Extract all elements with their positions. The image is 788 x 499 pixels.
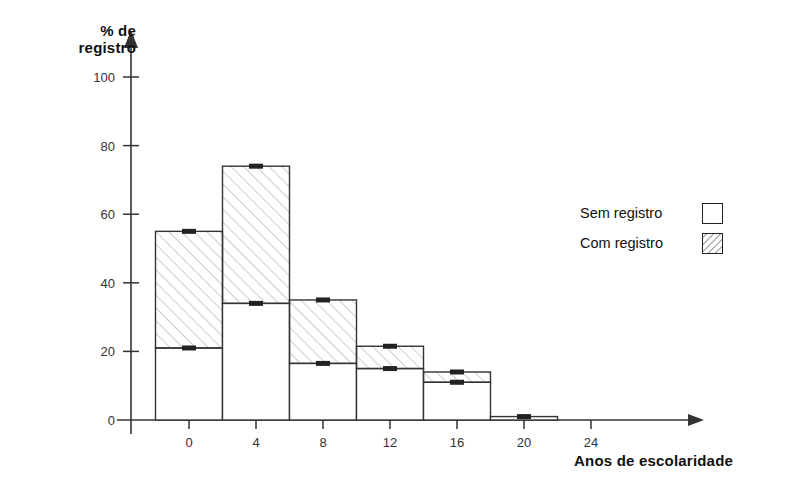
bar-top-marker	[383, 344, 397, 349]
bar-top-marker	[249, 164, 263, 169]
bar-divider-marker	[249, 301, 263, 306]
bar-segment-sem-registro	[424, 382, 491, 420]
bar-segment-com-registro	[223, 166, 290, 303]
bar-segment-com-registro	[156, 231, 223, 348]
legend-label-sem-registro: Sem registro	[580, 205, 688, 221]
y-tick-label: 80	[101, 139, 115, 154]
legend-swatch-com-registro	[702, 233, 723, 254]
x-axis-arrow	[688, 414, 704, 426]
y-axis-title: % de registro	[26, 22, 136, 56]
legend-item-sem-registro: Sem registro	[580, 200, 723, 226]
bar-segment-com-registro	[290, 300, 357, 363]
bar-top-marker	[182, 229, 196, 234]
legend-label-com-registro: Com registro	[580, 235, 688, 251]
y-tick-label: 40	[101, 276, 115, 291]
y-tick-label: 20	[101, 344, 115, 359]
bar-segment-sem-registro	[290, 363, 357, 420]
x-tick-label: 0	[185, 435, 192, 450]
x-tick-label: 12	[383, 435, 397, 450]
bar-top-marker	[517, 414, 531, 419]
bar-group	[156, 229, 223, 420]
x-tick-label: 16	[450, 435, 464, 450]
bar-segment-sem-registro	[223, 303, 290, 420]
bar-divider-marker	[450, 380, 464, 385]
chart-container: % de registro Anos de escolaridade Sem r…	[0, 0, 788, 499]
bars-layer	[156, 164, 558, 420]
y-axis-title-line2: registro	[26, 39, 136, 56]
x-axis-title: Anos de escolaridade	[574, 452, 733, 469]
y-tick-label: 100	[93, 70, 115, 85]
bar-divider-marker	[182, 345, 196, 350]
bar-divider-marker	[316, 361, 330, 366]
bar-segment-com-registro	[357, 346, 424, 368]
bar-group	[357, 344, 424, 420]
bar-group	[424, 369, 491, 420]
bar-top-marker	[450, 369, 464, 374]
legend-item-com-registro: Com registro	[580, 230, 723, 256]
bar-top-marker	[316, 297, 330, 302]
bar-divider-marker	[383, 366, 397, 371]
y-tick-label: 60	[101, 207, 115, 222]
bar-segment-sem-registro	[156, 348, 223, 420]
x-tick-label: 20	[517, 435, 531, 450]
x-tick-label: 4	[252, 435, 259, 450]
y-axis-title-line1: % de	[100, 22, 136, 39]
bar-segment-sem-registro	[357, 369, 424, 420]
bar-group	[223, 164, 290, 420]
chart-legend: Sem registro Com registro	[580, 200, 723, 260]
legend-swatch-sem-registro	[702, 203, 723, 224]
bar-group	[491, 414, 558, 420]
x-tick-label: 24	[584, 435, 598, 450]
y-tick-label: 0	[108, 413, 115, 428]
x-tick-label: 8	[319, 435, 326, 450]
bar-group	[290, 297, 357, 420]
